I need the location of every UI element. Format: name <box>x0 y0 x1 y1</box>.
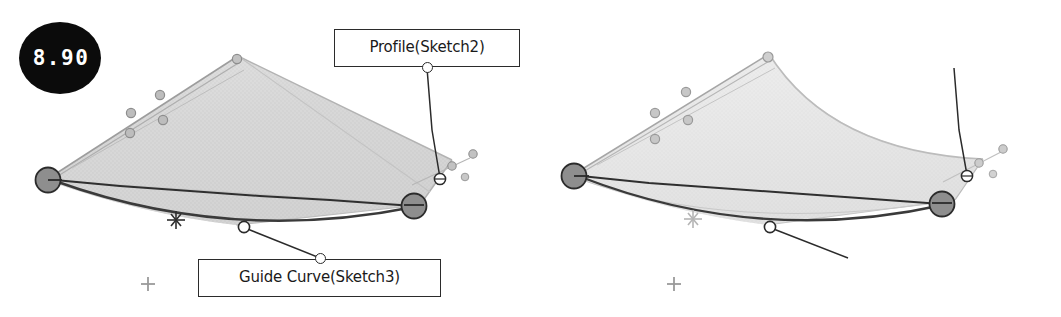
control-point[interactable] <box>448 162 456 170</box>
figure-pair-canvas: 8.90 Profile(Sketch2) Guide Curve(Sketch… <box>0 0 1061 317</box>
control-point[interactable] <box>125 128 134 137</box>
control-point[interactable] <box>975 159 983 167</box>
cursor-crosshair-right <box>667 277 681 291</box>
loft-surface-left[interactable] <box>46 56 452 225</box>
callout-label: Guide Curve(Sketch3) <box>233 268 406 286</box>
control-point[interactable] <box>681 87 690 96</box>
endpoint-handle-end-left[interactable] <box>402 194 427 219</box>
control-point[interactable] <box>683 115 692 124</box>
step-badge-left: 8.90 <box>19 22 101 94</box>
control-point[interactable] <box>126 108 135 117</box>
control-point[interactable] <box>650 134 659 143</box>
callout-guide-left[interactable]: Guide Curve(Sketch3) <box>198 259 441 297</box>
step-number: 8.90 <box>31 48 90 69</box>
cursor-crosshair-left <box>141 277 155 291</box>
leader-line-guide-right <box>764 221 848 258</box>
control-point[interactable] <box>155 90 164 99</box>
loft-surface-right[interactable] <box>571 54 983 225</box>
control-point[interactable] <box>763 52 773 62</box>
control-point[interactable] <box>469 150 477 158</box>
figure-panel-right: 8.91 Profile(Sketch2) Guide Curve(Sketch… <box>531 0 1061 317</box>
callout-anchor-dot-profile-left <box>422 62 433 73</box>
endpoint-handle-end-right[interactable] <box>930 192 955 217</box>
callout-label: Profile(Sketch2) <box>363 38 490 56</box>
control-point[interactable] <box>232 54 241 63</box>
callout-anchor-dot-guide-left <box>315 253 326 264</box>
control-point[interactable] <box>999 145 1007 153</box>
control-point[interactable] <box>158 115 167 124</box>
control-point[interactable] <box>650 108 659 117</box>
control-point[interactable] <box>461 173 469 181</box>
cad-viewport-right[interactable] <box>531 0 1061 317</box>
figure-panel-left: 8.90 Profile(Sketch2) Guide Curve(Sketch… <box>0 0 530 317</box>
endpoint-handle-start-left[interactable] <box>36 168 63 193</box>
leader-line-guide-left <box>238 221 320 258</box>
control-point[interactable] <box>989 170 997 178</box>
